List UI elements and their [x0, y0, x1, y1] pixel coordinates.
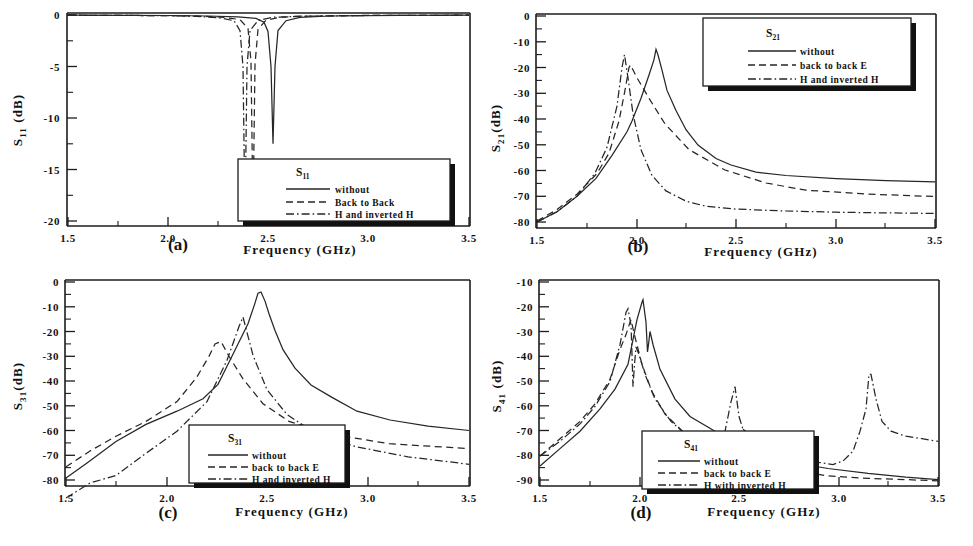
panel-d-ytick-4: -50 [517, 375, 533, 387]
panel-d-ylabel-unit: (dB) [489, 360, 504, 393]
panel-d-ylabel: S41 (dB) [489, 360, 507, 413]
panel-b-ytick-4: -40 [514, 113, 530, 125]
panel-c-legend: S31 without back to back E H and inverte… [189, 425, 350, 488]
panel-a-ytick-0: 0 [54, 9, 60, 21]
panel-a: 0 -5 -10 -15 -20 1.5 2.0 2.5 3.0 3.5 [0, 0, 487, 273]
panel-b-ylabel-unit: (dB) [488, 104, 503, 133]
panel-d-ytick-6: -70 [517, 425, 533, 437]
panel-c-ytick-6: -60 [43, 425, 59, 437]
panel-a-ylabel-sub: 11 [18, 127, 28, 138]
panel-d-legend-item-0: without [704, 457, 739, 467]
panel-d-legend-item-1: back to back E [704, 469, 771, 479]
panel-d-legend: S41 without back to back E H with invert… [642, 431, 819, 494]
panel-c-ytick-5: -50 [43, 400, 59, 412]
panel-c-svg: 0 -10 -20 -30 -40 -50 -60 -70 -80 1.5 2.… [0, 268, 487, 546]
panel-c-ytick-3: -30 [43, 350, 59, 362]
panel-c-legend-item-2: H and inverted H [252, 475, 331, 485]
panel-b-xtick-3: 3.0 [828, 234, 844, 246]
panel-d-xtick-4: 3.5 [930, 492, 946, 504]
panel-a-ytick-2: -10 [44, 112, 60, 124]
panel-d-ytick-2: -30 [517, 326, 533, 338]
panel-c-ytick-2: -20 [43, 326, 59, 338]
panel-b-ytick-8: -80 [514, 216, 530, 228]
panel-a-legend-item-0: without [335, 185, 370, 195]
svg-text:S41 (dB): S41 (dB) [489, 360, 507, 413]
panel-c-xlabel: Frequency (GHz) [235, 504, 348, 519]
panel-b-ylabel-main: S [488, 144, 503, 152]
panel-a-ylabel-main: S [10, 138, 25, 146]
panel-d-svg: -10 -20 -30 -40 -50 -60 -70 -80 -90 1.5 … [486, 268, 973, 546]
panel-a-ytick-3: -15 [44, 164, 60, 176]
panel-d-xtick-0: 1.5 [532, 492, 548, 504]
panel-d-ytick-0: -10 [517, 276, 533, 288]
panel-d-legend-item-2: H with inverted H [704, 481, 786, 491]
panel-d-label: (d) [631, 503, 652, 522]
panel-a-y-ticks [67, 15, 77, 221]
panel-c-xtick-3: 3.0 [360, 492, 376, 504]
panel-d-ytick-8: -90 [517, 474, 533, 486]
curve-a-without [68, 15, 469, 144]
panel-d-ylabel-main: S [489, 404, 504, 412]
panel-d-xtick-3: 3.0 [831, 492, 847, 504]
panel-b-ytick-3: -30 [514, 87, 530, 99]
panel-b-ylabel: S21(dB) [488, 104, 506, 153]
panel-d-ytick-3: -40 [517, 350, 533, 362]
panel-b-x-ticks [537, 219, 935, 228]
panel-a-xtick-4: 3.5 [461, 232, 477, 244]
panel-b: 0 -10 -20 -30 -40 -50 -60 -70 -80 1.5 2.… [486, 0, 973, 273]
panel-c-legend-item-0: without [252, 451, 287, 461]
panel-b-ylabel-sub: 21 [496, 133, 506, 144]
panel-c-ytick-0: 0 [53, 276, 59, 288]
panel-d-ytick-1: -20 [517, 301, 533, 313]
panel-d-y-ticks [539, 282, 549, 480]
panel-c-ytick-8: -80 [43, 474, 59, 486]
panel-b-label: (b) [628, 237, 649, 256]
panel-b-xlabel: Frequency (GHz) [704, 244, 817, 259]
panel-c-label: (c) [159, 503, 178, 522]
panel-a-ytick-4: -20 [44, 215, 60, 227]
svg-text:S11 (dB): S11 (dB) [10, 94, 28, 146]
panel-c-ylabel-main: S [10, 402, 25, 410]
panel-a-legend-item-2: H and inverted H [335, 210, 414, 220]
panel-a-legend-item-1: Back to Back [335, 198, 395, 208]
panel-b-legend-item-0: without [800, 47, 835, 57]
panel-b-ytick-6: -60 [514, 165, 530, 177]
panel-b-legend: S21 without back to back E H and inverte… [703, 18, 916, 91]
panel-d-ytick-5: -60 [517, 400, 533, 412]
panel-c-ylabel-sub: 31 [18, 391, 28, 402]
svg-text:S31(dB): S31(dB) [10, 362, 28, 411]
panel-b-ytick-1: -10 [514, 36, 530, 48]
panel-d-ytick-7: -80 [517, 449, 533, 461]
panel-b-ytick-5: -50 [514, 139, 530, 151]
panel-a-legend: S11 without Back to Back H and inverted … [238, 159, 455, 226]
panel-d-ylabel-sub: 41 [497, 393, 507, 404]
panel-b-xtick-0: 1.5 [529, 234, 545, 246]
panel-a-ylabel-unit: (dB) [10, 94, 25, 127]
panel-a-ytick-1: -5 [50, 61, 60, 73]
panel-a-xtick-0: 1.5 [60, 232, 76, 244]
panel-c-ytick-4: -40 [43, 375, 59, 387]
panel-c-y-ticks [65, 282, 75, 480]
panel-d-xlabel: Frequency (GHz) [707, 504, 820, 519]
panel-a-label: (a) [168, 235, 188, 254]
panel-b-svg: 0 -10 -20 -30 -40 -50 -60 -70 -80 1.5 2.… [486, 0, 973, 273]
panel-c: 0 -10 -20 -30 -40 -50 -60 -70 -80 1.5 2.… [0, 268, 487, 546]
figure-s-parameter-panels: 0 -5 -10 -15 -20 1.5 2.0 2.5 3.0 3.5 [0, 0, 973, 546]
panel-a-xlabel: Frequency (GHz) [243, 242, 356, 257]
svg-text:S21(dB): S21(dB) [488, 104, 506, 153]
panel-b-legend-item-2: H and inverted H [800, 75, 879, 85]
panel-c-ylabel: S31(dB) [10, 362, 28, 411]
panel-c-legend-item-1: back to back E [252, 463, 319, 473]
panel-c-ylabel-unit: (dB) [10, 362, 25, 391]
panel-b-y-ticks [536, 16, 546, 222]
panel-b-xtick-4: 3.5 [927, 234, 943, 246]
panel-c-ytick-1: -10 [43, 301, 59, 313]
panel-b-ytick-2: -20 [514, 62, 530, 74]
panel-a-xtick-3: 3.0 [360, 232, 376, 244]
panel-c-xtick-4: 3.5 [461, 492, 477, 504]
panel-c-xtick-2: 2.5 [259, 492, 275, 504]
panel-b-ytick-7: -70 [514, 190, 530, 202]
panel-a-svg: 0 -5 -10 -15 -20 1.5 2.0 2.5 3.0 3.5 [0, 0, 487, 273]
panel-c-ytick-7: -70 [43, 449, 59, 461]
panel-a-ylabel: S11 (dB) [10, 94, 28, 146]
